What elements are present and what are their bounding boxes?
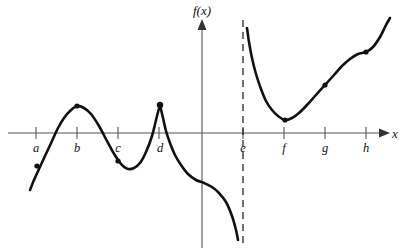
marker-point-on-falling-left [115, 158, 120, 163]
tick-label-a: a [33, 141, 39, 155]
function-graph-figure: a b c d e f g h f(x) x [0, 0, 404, 251]
curve-left-branch [30, 105, 238, 240]
x-axis-arrowhead [379, 129, 390, 138]
tick-label-b: b [74, 141, 80, 155]
tick-label-d: d [157, 141, 164, 155]
tick-label-c: c [115, 141, 121, 155]
marker-point-on-rising-left [34, 163, 39, 168]
marker-local-minimum-right [282, 117, 287, 122]
marker-cusp-corner [157, 102, 163, 108]
graph-canvas: a b c d e f g h f(x) x [0, 0, 404, 251]
tick-label-e: e [240, 141, 246, 155]
y-axis-label: f(x) [193, 3, 211, 18]
marker-local-maximum [74, 103, 79, 108]
marker-point-on-rising-right [322, 82, 327, 87]
tick-label-g: g [322, 141, 328, 155]
curve-right-branch [247, 18, 390, 120]
tick-label-f: f [282, 141, 287, 155]
x-axis-label: x [391, 126, 398, 141]
y-axis-arrowhead [198, 19, 207, 30]
marker-inflection-right [363, 49, 368, 54]
tick-label-h: h [363, 141, 369, 155]
